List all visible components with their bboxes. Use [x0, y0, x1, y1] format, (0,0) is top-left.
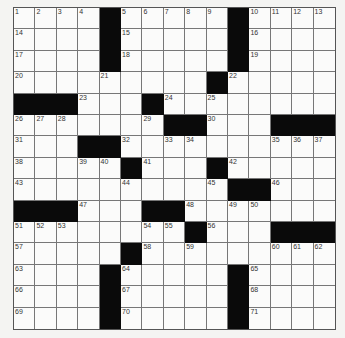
grid-cell[interactable]	[35, 308, 56, 329]
grid-cell[interactable]	[100, 115, 121, 136]
grid-cell[interactable]	[314, 286, 335, 307]
grid-cell[interactable]: 38	[14, 158, 35, 179]
grid-cell[interactable]: 46	[271, 179, 292, 200]
grid-cell[interactable]: 41	[142, 158, 163, 179]
grid-cell[interactable]: 39	[78, 158, 99, 179]
grid-cell[interactable]: 65	[249, 265, 270, 286]
grid-cell[interactable]	[228, 243, 249, 264]
grid-cell[interactable]	[35, 29, 56, 50]
grid-cell[interactable]: 68	[249, 286, 270, 307]
grid-cell[interactable]: 20	[14, 72, 35, 93]
grid-cell[interactable]: 13	[314, 8, 335, 29]
grid-cell[interactable]	[228, 115, 249, 136]
grid-cell[interactable]: 71	[249, 308, 270, 329]
grid-cell[interactable]	[57, 243, 78, 264]
grid-cell[interactable]	[164, 308, 185, 329]
grid-cell[interactable]: 14	[14, 29, 35, 50]
grid-cell[interactable]	[185, 265, 206, 286]
grid-cell[interactable]: 51	[14, 222, 35, 243]
grid-cell[interactable]: 15	[121, 29, 142, 50]
grid-cell[interactable]: 7	[164, 8, 185, 29]
grid-cell[interactable]	[142, 286, 163, 307]
grid-cell[interactable]	[314, 72, 335, 93]
grid-cell[interactable]: 28	[57, 115, 78, 136]
grid-cell[interactable]	[57, 158, 78, 179]
grid-cell[interactable]: 22	[228, 72, 249, 93]
grid-cell[interactable]: 3	[57, 8, 78, 29]
grid-cell[interactable]: 67	[121, 286, 142, 307]
grid-cell[interactable]	[57, 136, 78, 157]
grid-cell[interactable]: 9	[207, 8, 228, 29]
grid-cell[interactable]: 31	[14, 136, 35, 157]
grid-cell[interactable]	[292, 179, 313, 200]
grid-cell[interactable]	[207, 308, 228, 329]
grid-cell[interactable]	[57, 286, 78, 307]
grid-cell[interactable]	[185, 29, 206, 50]
grid-cell[interactable]	[314, 158, 335, 179]
grid-cell[interactable]: 33	[164, 136, 185, 157]
grid-cell[interactable]	[207, 286, 228, 307]
grid-cell[interactable]	[100, 94, 121, 115]
grid-cell[interactable]	[78, 51, 99, 72]
grid-cell[interactable]: 44	[121, 179, 142, 200]
grid-cell[interactable]	[121, 201, 142, 222]
grid-cell[interactable]	[142, 72, 163, 93]
grid-cell[interactable]: 60	[271, 243, 292, 264]
grid-cell[interactable]	[121, 115, 142, 136]
grid-cell[interactable]	[249, 243, 270, 264]
grid-cell[interactable]	[292, 308, 313, 329]
grid-cell[interactable]: 50	[249, 201, 270, 222]
grid-cell[interactable]	[249, 222, 270, 243]
grid-cell[interactable]	[78, 286, 99, 307]
grid-cell[interactable]: 62	[314, 243, 335, 264]
grid-cell[interactable]: 64	[121, 265, 142, 286]
grid-cell[interactable]	[314, 51, 335, 72]
grid-cell[interactable]	[35, 243, 56, 264]
grid-cell[interactable]: 47	[78, 201, 99, 222]
grid-cell[interactable]	[57, 29, 78, 50]
grid-cell[interactable]	[228, 222, 249, 243]
grid-cell[interactable]	[292, 265, 313, 286]
grid-cell[interactable]	[207, 265, 228, 286]
grid-cell[interactable]	[185, 286, 206, 307]
grid-cell[interactable]: 53	[57, 222, 78, 243]
grid-cell[interactable]	[271, 265, 292, 286]
grid-cell[interactable]: 24	[164, 94, 185, 115]
grid-cell[interactable]: 19	[249, 51, 270, 72]
grid-cell[interactable]	[185, 158, 206, 179]
grid-cell[interactable]	[271, 201, 292, 222]
grid-cell[interactable]: 8	[185, 8, 206, 29]
grid-cell[interactable]	[164, 29, 185, 50]
grid-cell[interactable]	[292, 72, 313, 93]
grid-cell[interactable]: 32	[121, 136, 142, 157]
grid-cell[interactable]: 42	[228, 158, 249, 179]
grid-cell[interactable]	[292, 94, 313, 115]
grid-cell[interactable]	[35, 265, 56, 286]
grid-cell[interactable]	[207, 201, 228, 222]
grid-cell[interactable]: 57	[14, 243, 35, 264]
grid-cell[interactable]	[164, 158, 185, 179]
grid-cell[interactable]	[314, 308, 335, 329]
grid-cell[interactable]	[142, 308, 163, 329]
grid-cell[interactable]	[57, 308, 78, 329]
grid-cell[interactable]	[78, 179, 99, 200]
grid-cell[interactable]	[100, 201, 121, 222]
grid-cell[interactable]	[164, 243, 185, 264]
grid-cell[interactable]	[78, 222, 99, 243]
grid-cell[interactable]: 4	[78, 8, 99, 29]
grid-cell[interactable]	[164, 286, 185, 307]
grid-cell[interactable]	[35, 158, 56, 179]
grid-cell[interactable]	[142, 179, 163, 200]
grid-cell[interactable]	[142, 29, 163, 50]
grid-cell[interactable]	[207, 243, 228, 264]
grid-cell[interactable]	[314, 94, 335, 115]
grid-cell[interactable]	[142, 265, 163, 286]
grid-cell[interactable]	[78, 265, 99, 286]
grid-cell[interactable]	[57, 51, 78, 72]
grid-cell[interactable]	[57, 72, 78, 93]
grid-cell[interactable]	[271, 286, 292, 307]
grid-cell[interactable]	[292, 158, 313, 179]
grid-cell[interactable]	[185, 72, 206, 93]
grid-cell[interactable]: 10	[249, 8, 270, 29]
grid-cell[interactable]	[207, 29, 228, 50]
